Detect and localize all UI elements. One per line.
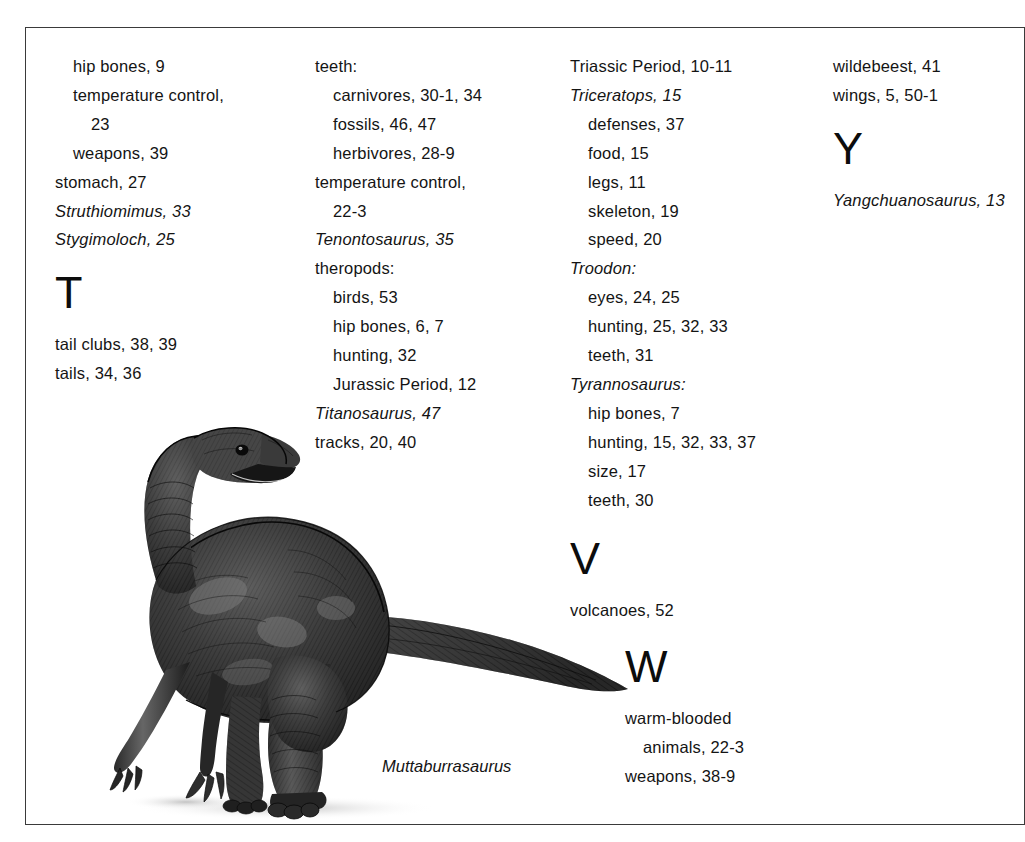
- index-entry: Triceratops, 15: [570, 81, 830, 110]
- index-column-2: teeth:carnivores, 30-1, 34fossils, 46, 4…: [315, 52, 560, 457]
- index-entry: fossils, 46, 47: [315, 110, 560, 139]
- index-entry: temperature control,: [315, 168, 560, 197]
- alphabet-letter-heading: W: [625, 642, 875, 692]
- index-entry: speed, 20: [570, 225, 830, 254]
- index-entry: tails, 34, 36: [55, 359, 295, 388]
- index-entry: warm-blooded: [625, 704, 875, 733]
- index-entry: skeleton, 19: [570, 197, 830, 226]
- alphabet-letter-heading: Y: [833, 124, 1013, 174]
- index-entry: weapons, 38-9: [625, 762, 875, 791]
- index-entry: Struthiomimus, 33: [55, 197, 295, 226]
- index-entry: wildebeest, 41: [833, 52, 1013, 81]
- alphabet-letter-heading: T: [55, 268, 295, 318]
- index-entry: theropods:: [315, 254, 560, 283]
- index-entry: food, 15: [570, 139, 830, 168]
- index-column-4: wildebeest, 41wings, 5, 50-1YYangchuanos…: [833, 52, 1013, 215]
- index-entry: Tyrannosaurus:: [570, 370, 830, 399]
- index-entry: Yangchuanosaurus, 13: [833, 186, 1013, 215]
- index-entry: hunting, 25, 32, 33: [570, 312, 830, 341]
- index-entry: Stygimoloch, 25: [55, 225, 295, 254]
- index-column-1: hip bones, 9temperature control,23weapon…: [55, 52, 295, 388]
- index-entry: legs, 11: [570, 168, 830, 197]
- index-entry: hip bones, 6, 7: [315, 312, 560, 341]
- index-section-w: Wwarm-bloodedanimals, 22-3weapons, 38-9: [625, 628, 875, 791]
- index-entry: Jurassic Period, 12: [315, 370, 560, 399]
- index-entry: weapons, 39: [55, 139, 295, 168]
- index-entry: tail clubs, 38, 39: [55, 330, 295, 359]
- index-entry: defenses, 37: [570, 110, 830, 139]
- index-entry: animals, 22-3: [625, 733, 875, 762]
- index-entry: temperature control,: [55, 81, 295, 110]
- index-entry: Troodon:: [570, 254, 830, 283]
- index-entry: stomach, 27: [55, 168, 295, 197]
- index-entry: teeth:: [315, 52, 560, 81]
- index-entry: herbivores, 28-9: [315, 139, 560, 168]
- index-entry: carnivores, 30-1, 34: [315, 81, 560, 110]
- index-entry: 23: [55, 110, 295, 139]
- index-entry: Tenontosaurus, 35: [315, 225, 560, 254]
- index-entry: Triassic Period, 10-11: [570, 52, 830, 81]
- index-entry: hip bones, 9: [55, 52, 295, 81]
- index-entry: eyes, 24, 25: [570, 283, 830, 312]
- index-entry: hunting, 32: [315, 341, 560, 370]
- figure-caption: Muttaburrasaurus: [382, 757, 511, 776]
- dinosaur-illustration: [36, 400, 636, 820]
- index-entry: birds, 53: [315, 283, 560, 312]
- index-entry: teeth, 31: [570, 341, 830, 370]
- index-entry: wings, 5, 50-1: [833, 81, 1013, 110]
- index-entry: 22-3: [315, 197, 560, 226]
